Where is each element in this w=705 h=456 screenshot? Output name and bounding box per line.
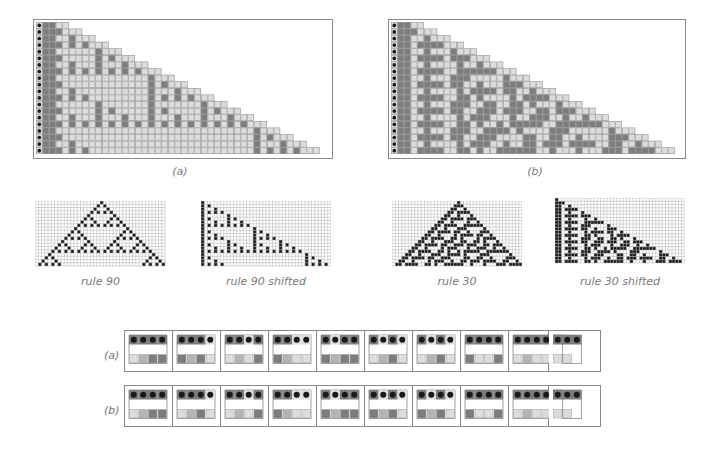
rule-box-graphic: [461, 386, 509, 426]
rule-box-graphic: [269, 386, 317, 426]
rule-box-graphic: [125, 386, 173, 426]
rule-box: [125, 386, 173, 426]
rule-box: [413, 386, 461, 426]
rule-box: [317, 386, 365, 426]
rule-90-grid: [35, 201, 166, 267]
rule-table-b-label: (b): [104, 404, 120, 417]
rule-table-a-label: (a): [104, 349, 119, 362]
rule-30-shifted-caption: rule 30 shifted: [555, 275, 685, 288]
panel-b-staircase-grid: [391, 22, 683, 156]
rule-box-graphic: [509, 331, 549, 371]
rule-box-graphic: [549, 331, 596, 371]
rule-box: [221, 386, 269, 426]
rule-box-graphic: [549, 386, 596, 426]
rule-box: [125, 331, 173, 371]
panel-b-caption: (b): [515, 165, 555, 178]
rule-box-graphic: [413, 386, 461, 426]
rule-box: [509, 386, 549, 426]
rule-box-graphic: [365, 331, 413, 371]
rule-box-graphic: [413, 331, 461, 371]
rule-box-graphic: [173, 331, 221, 371]
rule-box: [413, 331, 461, 371]
rule-90-caption: rule 90: [35, 275, 166, 288]
rule-box-graphic: [173, 386, 221, 426]
rule-90-shifted-grid: [201, 201, 331, 267]
rule-box-graphic: [317, 386, 365, 426]
rule-30-grid: [392, 201, 522, 267]
rule-box-graphic: [221, 331, 269, 371]
rule-box: [317, 331, 365, 371]
rule-box-graphic: [461, 331, 509, 371]
rule-box: [549, 331, 596, 371]
rule-box: [221, 331, 269, 371]
rule-box-graphic: [221, 386, 269, 426]
rule-30-caption: rule 30: [392, 275, 522, 288]
panel-a-staircase-grid: [36, 22, 328, 156]
rule-box: [509, 331, 549, 371]
rule-box-graphic: [365, 386, 413, 426]
rule-box: [173, 331, 221, 371]
rule-box-graphic: [269, 331, 317, 371]
panel-a-caption: (a): [160, 165, 200, 178]
rule-box: [461, 386, 509, 426]
rule-table-a: [124, 330, 601, 372]
rule-box: [365, 386, 413, 426]
rule-90-shifted-caption: rule 90 shifted: [201, 275, 331, 288]
rule-box: [269, 331, 317, 371]
rule-box-graphic: [125, 331, 173, 371]
rule-box-graphic: [509, 386, 549, 426]
rule-table-b: [124, 385, 601, 427]
rule-box: [365, 331, 413, 371]
rule-30-shifted-grid: [555, 198, 685, 266]
rule-box: [461, 331, 509, 371]
rule-box: [549, 386, 596, 426]
rule-box: [269, 386, 317, 426]
rule-box: [173, 386, 221, 426]
rule-box-graphic: [317, 331, 365, 371]
